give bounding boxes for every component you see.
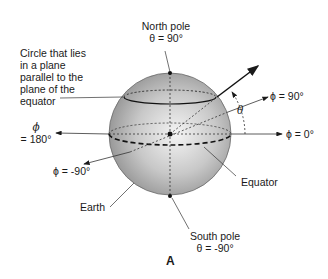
phi-180-arrow bbox=[56, 133, 109, 134]
phi-neg90-label: ϕ = -90° bbox=[53, 165, 90, 177]
latitude-circle-label: Circle that lies in a plane parallel to … bbox=[20, 47, 86, 107]
panel-label: A bbox=[166, 255, 175, 267]
equator-label: Equator bbox=[241, 176, 278, 188]
phi-90-label: ϕ = 90° bbox=[270, 90, 304, 102]
earth-label: Earth bbox=[80, 201, 105, 213]
phi-0-label: ϕ = 0° bbox=[286, 128, 314, 140]
south-pole-label: South pole θ = -90° bbox=[180, 230, 250, 254]
phi-90-arrow bbox=[228, 97, 268, 112]
phi-180-label: ϕ = 180° bbox=[18, 121, 54, 145]
radius-vector-arrow bbox=[217, 66, 258, 97]
theta-label: θ bbox=[237, 104, 243, 116]
north-pole-label: North pole θ = 90° bbox=[126, 20, 206, 44]
